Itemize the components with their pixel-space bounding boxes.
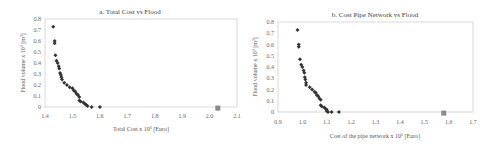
square-marker: [441, 111, 446, 116]
chart-b-svg: b. Cost Pipe Network vs Flood 00.10.20.3…: [245, 0, 490, 147]
y-tick-label: 0.6: [267, 42, 275, 48]
data-points: [51, 25, 220, 111]
x-tick-label: 1.1: [323, 119, 331, 125]
y-axis-ticks: 00.10.20.30.40.50.60.70.8: [34, 16, 42, 110]
data-points: [296, 28, 447, 116]
diamond-marker: [296, 28, 300, 32]
y-tick-label: 0.7: [267, 30, 275, 36]
y-tick-label: 0.5: [34, 49, 42, 55]
y-tick-label: 0.5: [267, 53, 275, 59]
diamond-marker: [65, 83, 69, 87]
y-tick-label: 0.8: [267, 19, 275, 25]
diamond-marker: [62, 81, 66, 85]
y-tick-label: 0.8: [34, 16, 42, 22]
chart-a-svg: a. Total Cost vs Flood 00.10.20.30.40.50…: [0, 0, 245, 147]
y-tick-label: 0: [271, 109, 274, 115]
x-tick-label: 1.3: [372, 119, 380, 125]
x-tick-label: 1.5: [69, 113, 77, 119]
diamond-marker: [53, 41, 57, 45]
chart-title: b. Cost Pipe Network vs Flood: [332, 11, 419, 19]
diamond-marker: [337, 110, 341, 114]
chart-title: a. Total Cost vs Flood: [99, 8, 161, 16]
plot-frame: [278, 22, 473, 112]
y-tick-label: 0.6: [34, 38, 42, 44]
chart-pipe-cost-vs-flood: b. Cost Pipe Network vs Flood 00.10.20.3…: [245, 0, 490, 147]
plot-frame: [45, 19, 237, 107]
y-tick-label: 0.4: [267, 64, 275, 70]
x-tick-label: 1.7: [124, 113, 132, 119]
x-tick-label: 2.0: [206, 113, 214, 119]
x-axis-ticks: 1.41.51.61.71.81.92.02.1: [41, 113, 241, 119]
chart-total-cost-vs-flood: a. Total Cost vs Flood 00.10.20.30.40.50…: [0, 0, 245, 147]
diamond-marker: [51, 25, 55, 29]
y-axis-label: Flood volume x 103 [m3]: [19, 33, 28, 93]
y-axis-ticks: 00.10.20.30.40.50.60.70.8: [267, 19, 275, 115]
diamond-marker: [298, 57, 302, 61]
x-tick-label: 1.8: [151, 113, 159, 119]
y-tick-label: 0.4: [34, 60, 42, 66]
diamond-marker: [98, 105, 102, 109]
x-tick-label: 1.6: [96, 113, 104, 119]
x-tick-label: 0.9: [274, 119, 282, 125]
x-tick-label: 1.4: [41, 113, 49, 119]
y-tick-label: 0.1: [267, 98, 275, 104]
y-axis-label: Flood volume x 103 [m3]: [251, 37, 260, 97]
y-tick-label: 0.1: [34, 93, 42, 99]
x-tick-label: 1.7: [469, 119, 477, 125]
diamond-marker: [90, 105, 94, 109]
y-tick-label: 0.7: [34, 27, 42, 33]
square-marker: [215, 106, 220, 111]
x-tick-label: 1.9: [178, 113, 186, 119]
x-axis-label: Total Cost x 106 [Euro]: [113, 125, 169, 134]
diamond-marker: [53, 53, 57, 57]
x-tick-label: 1.5: [421, 119, 429, 125]
y-tick-label: 0.2: [34, 82, 42, 88]
x-tick-label: 1.0: [299, 119, 307, 125]
diamond-marker: [330, 110, 334, 114]
x-tick-label: 1.6: [445, 119, 453, 125]
x-axis-label: Cost of the pipe network x 106 [Euro]: [330, 132, 421, 141]
y-tick-label: 0: [38, 104, 41, 110]
y-tick-label: 0.2: [267, 87, 275, 93]
x-tick-label: 2.1: [233, 113, 241, 119]
x-tick-label: 1.4: [396, 119, 404, 125]
x-tick-label: 1.2: [347, 119, 355, 125]
diamond-marker: [304, 83, 308, 87]
diamond-marker: [297, 45, 301, 49]
y-tick-label: 0.3: [267, 75, 275, 81]
x-axis-ticks: 0.91.01.11.21.31.41.51.61.7: [274, 119, 477, 125]
y-tick-label: 0.3: [34, 71, 42, 77]
